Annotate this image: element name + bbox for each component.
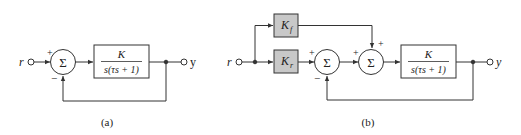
plant-numerator: K [117, 48, 126, 60]
caption-a: (a) [101, 116, 114, 129]
input-label-r: r [19, 55, 24, 69]
plus-sign: + [47, 47, 53, 58]
input-terminal [236, 59, 242, 65]
caption-b: (b) [362, 116, 375, 129]
sum2-plus-sign-top: + [378, 38, 384, 49]
kr-symbol: K [280, 54, 290, 68]
output-label-y: y [190, 55, 196, 69]
plant-numerator: K [424, 48, 433, 60]
input-terminal [28, 59, 34, 65]
output-terminal [181, 59, 187, 65]
sum-symbol: Σ [59, 55, 67, 70]
input-label-r: r [227, 55, 232, 69]
block-diagram-figure: r Σ + − K s(τs + 1) y (a) r K f K r [0, 0, 521, 135]
output-label-y: y [495, 55, 502, 69]
plant-denominator: s(τs + 1) [411, 64, 446, 76]
feedforward-path [298, 26, 372, 49]
diagram-b: r K f K r Σ + − Σ + + K s(τs + 1) [227, 14, 502, 129]
output-terminal [487, 59, 493, 65]
sum1-minus-sign: − [314, 72, 320, 84]
diagram-a: r Σ + − K s(τs + 1) y (a) [19, 45, 196, 129]
sum2-plus-sign-left: + [353, 47, 359, 58]
feedforward-branch [255, 26, 273, 63]
sum1-plus-sign: + [309, 47, 315, 58]
plant-denominator: s(τs + 1) [104, 64, 139, 76]
kf-symbol: K [280, 18, 290, 32]
sum1-symbol: Σ [323, 55, 331, 70]
minus-sign: − [51, 72, 57, 84]
sum2-symbol: Σ [367, 55, 375, 70]
